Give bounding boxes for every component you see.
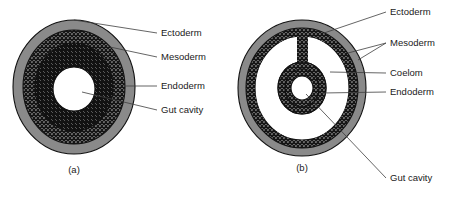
label-b-mesoderm: Mesoderm	[390, 37, 435, 48]
label-a-endoderm: Endoderm	[161, 80, 205, 91]
layer-b-gut-cavity	[291, 76, 313, 100]
anatomy-diagram-svg: Ectoderm Mesoderm Endoderm Gut cavity (a…	[0, 0, 455, 198]
label-a-gut-cavity: Gut cavity	[161, 104, 203, 115]
figure-container: Ectoderm Mesoderm Endoderm Gut cavity (a…	[0, 0, 455, 198]
label-b-gut-cavity: Gut cavity	[390, 172, 432, 183]
caption-a: (a)	[68, 164, 80, 175]
caption-b: (b)	[296, 162, 308, 173]
label-b-endoderm: Endoderm	[390, 86, 434, 97]
label-b-coelom: Coelom	[390, 67, 423, 78]
leader-b-ectoderm	[324, 12, 386, 33]
layer-a-gut-cavity	[53, 67, 95, 111]
leader-b-mesoderm-2	[358, 43, 386, 60]
label-a-mesoderm: Mesoderm	[161, 51, 206, 62]
diagram-b: Ectoderm Mesoderm Coelom Endoderm Gut ca…	[238, 6, 435, 183]
label-a-ectoderm: Ectoderm	[161, 27, 202, 38]
diagram-a: Ectoderm Mesoderm Endoderm Gut cavity (a…	[13, 20, 206, 175]
label-b-ectoderm: Ectoderm	[390, 6, 431, 17]
